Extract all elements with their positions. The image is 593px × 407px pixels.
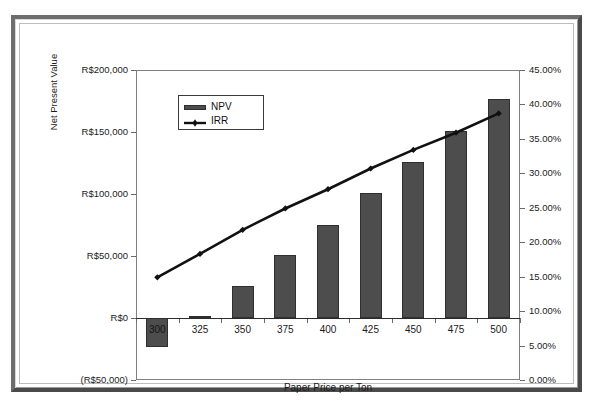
chart-legend: NPV IRR (178, 95, 264, 130)
left-axis-tick-label: R$100,000 (48, 188, 128, 199)
right-tick (520, 346, 525, 347)
right-tick (520, 70, 525, 71)
right-tick (520, 380, 525, 381)
left-axis-tick-label: (R$50,000) (48, 374, 128, 385)
right-axis-tick-label: 25.00% (529, 202, 593, 213)
legend-line-marker-icon (184, 115, 206, 127)
right-axis-tick-label: 5.00% (529, 340, 593, 351)
right-tick (520, 139, 525, 140)
irr-line-path (157, 113, 498, 277)
x-tick (520, 318, 521, 323)
right-tick (520, 242, 525, 243)
legend-label-irr: IRR (211, 115, 228, 126)
right-tick (520, 311, 525, 312)
left-axis-tick-label: R$150,000 (48, 126, 128, 137)
left-axis-tick-label: R$50,000 (48, 250, 128, 261)
chart-frame: Net Present Value Paper Price per Ton (R… (11, 15, 582, 392)
right-tick (520, 173, 525, 174)
right-axis-tick-label: 20.00% (529, 236, 593, 247)
right-axis-tick-label: 45.00% (529, 64, 593, 75)
right-axis-tick-label: 10.00% (529, 305, 593, 316)
right-axis-tick-label: 40.00% (529, 98, 593, 109)
legend-bar-swatch-icon (184, 105, 206, 110)
chart-inner-panel: Net Present Value Paper Price per Ton (R… (19, 23, 574, 384)
right-axis-tick-label: 35.00% (529, 133, 593, 144)
right-axis-tick-label: 30.00% (529, 167, 593, 178)
right-axis-tick-label: 0.00% (529, 374, 593, 385)
legend-label-npv: NPV (211, 101, 232, 112)
x-axis-title: Paper Price per Ton (136, 382, 520, 393)
left-axis-tick-label: R$200,000 (48, 64, 128, 75)
right-tick (520, 208, 525, 209)
left-tick (131, 380, 136, 381)
right-tick (520, 104, 525, 105)
right-tick (520, 277, 525, 278)
left-axis-tick-label: R$0 (48, 312, 128, 323)
right-axis-tick-label: 15.00% (529, 271, 593, 282)
x-axis-tick-label: 500 (474, 324, 524, 335)
